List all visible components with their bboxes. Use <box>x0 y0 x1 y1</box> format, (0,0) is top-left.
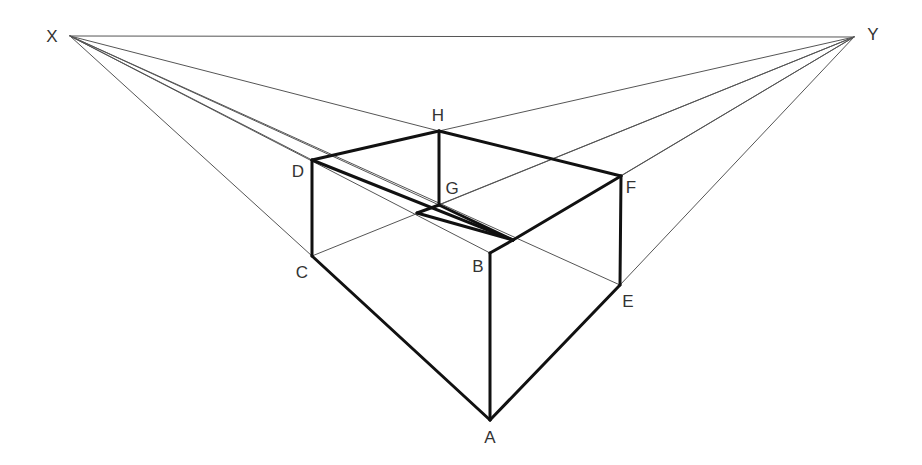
box-edges <box>312 131 621 420</box>
vertex-label-a: A <box>484 429 495 446</box>
construction-line-x-b <box>70 36 490 253</box>
edge-e-f <box>620 176 621 285</box>
construction-line-x-c <box>70 36 312 256</box>
construction-line-x-e <box>70 36 620 285</box>
edge-d-b2 <box>312 160 513 240</box>
perspective-diagram: X Y A B C D E F G H <box>0 0 922 465</box>
vertex-label-c: C <box>296 264 308 281</box>
edge-b-b2 <box>490 240 513 253</box>
diagram-canvas <box>0 0 922 465</box>
edge-d-h <box>312 131 439 160</box>
construction-line-y-c <box>312 37 854 256</box>
vertex-label-f: F <box>626 179 636 196</box>
edge-f-b2 <box>513 176 621 240</box>
vertex-label-h: H <box>432 107 444 124</box>
edge-a-c <box>312 256 490 420</box>
vertex-label-d: D <box>292 163 304 180</box>
vanishing-point-label-y: Y <box>867 26 878 43</box>
construction-line-y-e <box>620 37 854 285</box>
vanishing-point-label-x: X <box>46 28 57 45</box>
vertex-label-g: G <box>445 180 458 197</box>
vertex-label-b: B <box>472 258 483 275</box>
vertex-label-e: E <box>622 293 633 310</box>
construction-line-y-h <box>439 37 854 131</box>
construction-lines <box>70 36 854 285</box>
edge-a-e <box>490 285 620 420</box>
construction-line-x-y <box>70 36 854 37</box>
construction-line-x-h <box>70 36 439 131</box>
edge-h-f <box>439 131 621 176</box>
